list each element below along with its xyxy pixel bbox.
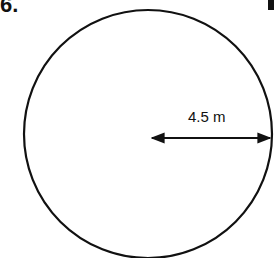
- circle-diagram: [0, 0, 274, 258]
- radius-label: 4.5 m: [188, 108, 226, 125]
- circle: [24, 10, 272, 258]
